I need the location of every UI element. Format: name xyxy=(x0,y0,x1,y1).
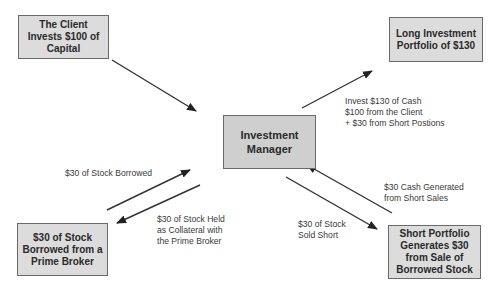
node-short-portfolio: Short Portfolio Generates $30 from Sale … xyxy=(388,225,481,279)
node-prime-broker-label: $30 of Stock Borrowed from a Prime Broke… xyxy=(22,232,102,268)
node-investment-manager-label: Investment Manager xyxy=(240,128,298,156)
node-long-portfolio: Long Investment Portfolio of $130 xyxy=(389,17,483,62)
edge-label-cash-generated: $30 Cash Generated from Short Sales xyxy=(384,182,464,204)
node-client-label: The Client Invests $100 of Capital xyxy=(28,19,100,55)
arrow-client-to-manager xyxy=(112,60,196,111)
node-investment-manager: Investment Manager xyxy=(223,115,316,169)
node-client: The Client Invests $100 of Capital xyxy=(18,15,109,59)
node-prime-broker: $30 of Stock Borrowed from a Prime Broke… xyxy=(17,223,108,276)
edge-label-collateral: $30 of Stock Held as Collateral with the… xyxy=(157,214,225,247)
arrow-short-to-manager xyxy=(307,165,392,213)
node-short-portfolio-label: Short Portfolio Generates $30 from Sale … xyxy=(396,228,473,276)
edge-label-stock-borrowed: $30 of Stock Borrowed xyxy=(65,168,152,179)
node-long-portfolio-label: Long Investment Portfolio of $130 xyxy=(396,28,476,52)
edge-label-invest-long: Invest $130 of Cash $100 from the Client… xyxy=(345,96,445,129)
edge-label-sold-short: $30 of Stock Sold Short xyxy=(298,219,346,241)
